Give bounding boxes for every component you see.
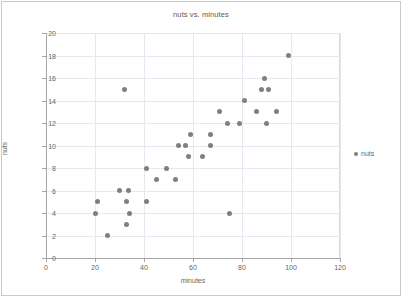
y-tick-label: 6 bbox=[30, 187, 56, 194]
scatter-point[interactable] bbox=[144, 199, 149, 204]
x-tick-mark bbox=[340, 258, 341, 262]
scatter-point[interactable] bbox=[117, 188, 122, 193]
x-tick-label: 40 bbox=[129, 264, 159, 271]
scatter-point[interactable] bbox=[124, 199, 129, 204]
y-tick-label: 2 bbox=[30, 232, 56, 239]
scatter-point[interactable] bbox=[264, 121, 269, 126]
plot-area bbox=[46, 33, 340, 258]
scatter-point[interactable] bbox=[237, 121, 242, 126]
chart-frame: nuts vs. minutes 02468101214161820 02040… bbox=[1, 1, 401, 296]
scatter-point[interactable] bbox=[262, 76, 267, 81]
x-tick-mark bbox=[242, 258, 243, 262]
x-tick-label: 60 bbox=[178, 264, 208, 271]
x-tick-label: 120 bbox=[325, 264, 355, 271]
y-tick-label: 12 bbox=[30, 120, 56, 127]
legend: nuts bbox=[354, 150, 374, 157]
x-tick-mark bbox=[95, 258, 96, 262]
scatter-point[interactable] bbox=[105, 233, 110, 238]
scatter-point[interactable] bbox=[126, 188, 131, 193]
y-tick-label: 0 bbox=[30, 255, 56, 262]
x-tick-label: 100 bbox=[276, 264, 306, 271]
gridline-vertical bbox=[193, 33, 194, 258]
scatter-point[interactable] bbox=[254, 109, 259, 114]
y-axis-title: nuts bbox=[1, 142, 8, 155]
scatter-point[interactable] bbox=[144, 166, 149, 171]
scatter-point[interactable] bbox=[227, 211, 232, 216]
y-tick-label: 4 bbox=[30, 210, 56, 217]
gridline-vertical bbox=[95, 33, 96, 258]
scatter-point[interactable] bbox=[208, 132, 213, 137]
scatter-point[interactable] bbox=[93, 211, 98, 216]
chart-title: nuts vs. minutes bbox=[2, 10, 400, 19]
scatter-point[interactable] bbox=[183, 143, 188, 148]
scatter-point[interactable] bbox=[266, 87, 271, 92]
gridline-vertical bbox=[144, 33, 145, 258]
y-tick-label: 8 bbox=[30, 165, 56, 172]
y-tick-label: 20 bbox=[30, 30, 56, 37]
scatter-point[interactable] bbox=[127, 211, 132, 216]
y-tick-label: 16 bbox=[30, 75, 56, 82]
scatter-point[interactable] bbox=[225, 121, 230, 126]
x-tick-mark bbox=[144, 258, 145, 262]
x-tick-label: 20 bbox=[80, 264, 110, 271]
scatter-point[interactable] bbox=[274, 109, 279, 114]
scatter-point[interactable] bbox=[164, 166, 169, 171]
scatter-point[interactable] bbox=[154, 177, 159, 182]
y-tick-label: 10 bbox=[30, 142, 56, 149]
x-tick-label: 80 bbox=[227, 264, 257, 271]
x-tick-mark bbox=[291, 258, 292, 262]
scatter-point[interactable] bbox=[217, 109, 222, 114]
scatter-point[interactable] bbox=[259, 87, 264, 92]
scatter-point[interactable] bbox=[188, 132, 193, 137]
scatter-point[interactable] bbox=[122, 87, 127, 92]
legend-label: nuts bbox=[361, 150, 374, 157]
y-tick-label: 14 bbox=[30, 97, 56, 104]
scatter-point[interactable] bbox=[95, 199, 100, 204]
scatter-point[interactable] bbox=[173, 177, 178, 182]
scatter-point[interactable] bbox=[208, 143, 213, 148]
x-tick-mark bbox=[46, 258, 47, 262]
gridline-vertical bbox=[340, 33, 341, 258]
x-tick-mark bbox=[193, 258, 194, 262]
scatter-point[interactable] bbox=[200, 154, 205, 159]
scatter-point[interactable] bbox=[186, 154, 191, 159]
legend-marker-icon bbox=[354, 152, 358, 156]
scatter-point[interactable] bbox=[124, 222, 129, 227]
gridline-vertical bbox=[242, 33, 243, 258]
x-tick-label: 0 bbox=[31, 264, 61, 271]
scatter-point[interactable] bbox=[242, 98, 247, 103]
y-tick-label: 18 bbox=[30, 52, 56, 59]
x-axis-title: minutes bbox=[46, 277, 340, 284]
scatter-point[interactable] bbox=[176, 143, 181, 148]
gridline-vertical bbox=[291, 33, 292, 258]
